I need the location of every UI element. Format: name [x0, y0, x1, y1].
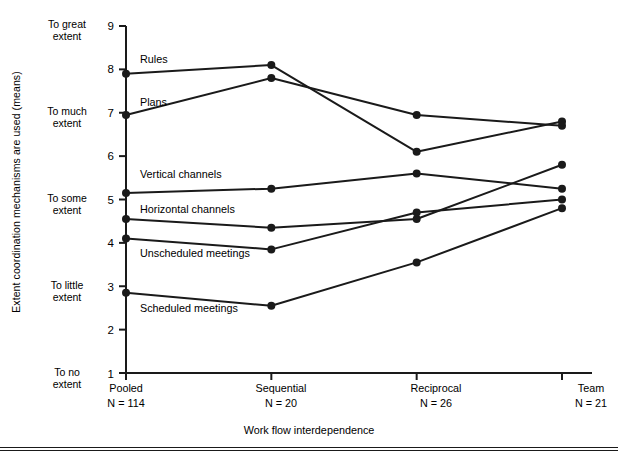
series-plans — [122, 74, 566, 130]
x-label-name: Sequential — [216, 381, 346, 396]
data-point — [267, 185, 275, 193]
chart-root: Extent coordination mechanisms are used … — [0, 0, 618, 456]
x-tick-marks — [126, 373, 562, 380]
x-label-pooled: Pooled N = 114 — [61, 381, 191, 410]
x-axis-title: Work flow interdependence — [0, 424, 618, 436]
data-point — [122, 189, 130, 197]
y-tick-marks — [119, 26, 126, 373]
x-label-sequential: Sequential N = 20 — [216, 381, 346, 410]
axis-lines — [126, 26, 592, 373]
data-point — [122, 235, 130, 243]
data-point — [413, 258, 421, 266]
data-point — [558, 185, 566, 193]
data-point — [267, 74, 275, 82]
x-label-count: N = 26 — [371, 396, 501, 411]
data-series — [122, 61, 566, 310]
data-point — [122, 70, 130, 78]
data-point — [267, 245, 275, 253]
x-label-team: Team N = 21 — [526, 381, 618, 410]
x-label-reciprocal: Reciprocal N = 26 — [371, 381, 501, 410]
data-point — [122, 111, 130, 119]
series-line — [126, 65, 562, 152]
x-label-count: N = 114 — [61, 396, 191, 411]
data-point — [413, 209, 421, 217]
series-label-plans: Plans — [140, 96, 167, 108]
footer-rule-bottom — [0, 450, 618, 451]
data-point — [122, 215, 130, 223]
x-label-count: N = 20 — [216, 396, 346, 411]
series-label-rules: Rules — [140, 53, 168, 65]
x-label-count: N = 21 — [526, 396, 618, 411]
data-point — [122, 289, 130, 297]
series-label-vertical-channels: Vertical channels — [140, 168, 222, 180]
x-label-name: Reciprocal — [371, 381, 501, 396]
data-point — [558, 204, 566, 212]
x-label-name: Pooled — [61, 381, 191, 396]
data-point — [413, 148, 421, 156]
data-point — [267, 61, 275, 69]
series-rules — [122, 61, 566, 156]
data-point — [267, 224, 275, 232]
data-point — [267, 302, 275, 310]
data-point — [413, 169, 421, 177]
data-point — [413, 111, 421, 119]
data-point — [558, 196, 566, 204]
series-line — [126, 78, 562, 126]
footer-rule-top — [0, 447, 618, 448]
series-label-horizontal-channels: Horizontal channels — [140, 203, 235, 215]
series-label-scheduled-meetings: Scheduled meetings — [140, 302, 238, 314]
data-point — [558, 122, 566, 130]
series-label-unscheduled-meetings: Unscheduled meetings — [140, 247, 250, 259]
data-point — [558, 161, 566, 169]
x-label-name: Team — [526, 381, 618, 396]
